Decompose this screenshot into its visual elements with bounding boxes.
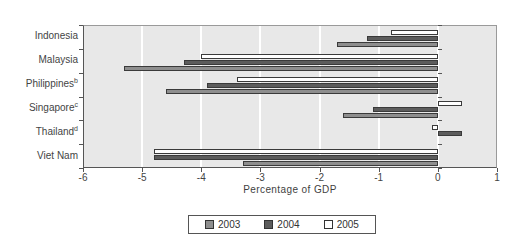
gridline--2: [319, 26, 321, 167]
legend-label: 2005: [337, 219, 359, 230]
bar-malaysia-2004: [184, 60, 438, 65]
bar-indonesia-2003: [337, 42, 438, 47]
legend-item-2004: 2004: [264, 219, 299, 230]
category-text: Philippines: [26, 78, 74, 89]
zero-axis-tick: [438, 97, 442, 98]
bar-malaysia-2003: [124, 66, 437, 71]
category-text: Malaysia: [39, 54, 78, 65]
zero-axis-tick: [438, 49, 442, 50]
bar-viet-nam-2005: [154, 149, 438, 154]
x-tick-label-0: 0: [420, 172, 456, 183]
bar-thailand-2005: [432, 125, 438, 130]
bar-singapore-2005: [438, 101, 462, 106]
y-axis-tick: [79, 25, 83, 26]
category-label-philippines: Philippinesb: [0, 78, 78, 89]
category-text: Indonesia: [35, 30, 78, 41]
legend-item-2005: 2005: [324, 219, 359, 230]
x-tick-label--1: -1: [361, 172, 397, 183]
category-text: Singapore: [29, 102, 75, 113]
bar-malaysia-2005: [201, 54, 438, 59]
legend-swatch-2005: [324, 220, 333, 229]
y-axis-tick: [79, 144, 83, 145]
category-superscript: b: [74, 77, 78, 84]
bar-philippines-2003: [166, 89, 438, 94]
category-text: Viet Nam: [37, 150, 78, 161]
gridline--5: [141, 26, 143, 167]
y-axis-tick: [79, 120, 83, 121]
fiscal-balance-chart: -6-5-4-3-2-101IndonesiaMalaysiaPhilippin…: [0, 0, 524, 247]
category-label-malaysia: Malaysia: [0, 54, 78, 65]
y-axis-tick: [79, 49, 83, 50]
legend-label: 2003: [218, 219, 240, 230]
bar-viet-nam-2004: [154, 155, 438, 160]
y-axis-tick: [79, 73, 83, 74]
x-tick-label-1: 1: [479, 172, 515, 183]
bar-thailand-2004: [438, 131, 462, 136]
zero-axis-tick: [438, 168, 442, 169]
x-tick-label--5: -5: [124, 172, 160, 183]
x-tick-label--2: -2: [302, 172, 338, 183]
y-axis-tick: [79, 168, 83, 169]
category-label-viet-nam: Viet Nam: [0, 150, 78, 161]
x-tick-label--4: -4: [183, 172, 219, 183]
legend-swatch-2004: [264, 220, 273, 229]
y-axis-tick: [79, 97, 83, 98]
legend: 200320042005: [188, 215, 376, 234]
legend-label: 2004: [277, 219, 299, 230]
category-label-indonesia: Indonesia: [0, 30, 78, 41]
category-label-thailand: Thailandd: [0, 126, 78, 137]
bar-singapore-2004: [373, 107, 438, 112]
bar-singapore-2003: [343, 113, 438, 118]
gridline--3: [259, 26, 261, 167]
legend-swatch-2003: [205, 220, 214, 229]
category-superscript: d: [74, 124, 78, 131]
gridline--1: [378, 26, 380, 167]
zero-axis-tick: [438, 144, 442, 145]
bar-philippines-2005: [237, 77, 438, 82]
x-axis-title: Percentage of GDP: [83, 184, 497, 195]
bar-indonesia-2004: [367, 36, 438, 41]
zero-axis-tick: [438, 73, 442, 74]
gridline--4: [200, 26, 202, 167]
bar-indonesia-2005: [391, 30, 438, 35]
zero-axis-tick: [438, 120, 442, 121]
legend-item-2003: 2003: [205, 219, 240, 230]
category-label-singapore: Singaporec: [0, 102, 78, 113]
category-superscript: c: [75, 101, 79, 108]
x-tick-label--6: -6: [65, 172, 101, 183]
x-tick-label--3: -3: [242, 172, 278, 183]
bar-philippines-2004: [207, 83, 438, 88]
zero-axis-tick: [438, 25, 442, 26]
category-text: Thailand: [36, 126, 74, 137]
bar-viet-nam-2003: [243, 161, 438, 166]
